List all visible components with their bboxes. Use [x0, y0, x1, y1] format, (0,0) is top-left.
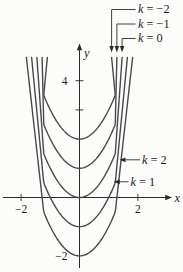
annotation-connector-k-neg1: [117, 24, 136, 47]
annotation-down-arrow-icon-k-neg2: [109, 46, 114, 52]
y-tick-label-neg2: −2: [55, 250, 67, 262]
annotation-down-arrow-icon-k-neg1: [115, 46, 120, 52]
annotation-connector-k-neg2: [112, 10, 136, 47]
y-axis-label: y: [82, 46, 90, 60]
annotation-label-k-2: k = 2: [142, 153, 167, 167]
x-tick-label-2: 2: [135, 203, 141, 215]
plot-canvas: xy−224−2k = −2k = −1k = 0k = 2k = 1: [0, 0, 183, 272]
annotation-label-k-1: k = 1: [131, 175, 156, 189]
annotation-label-k-neg1: k = −1: [138, 17, 170, 31]
x-axis-arrow-icon: [165, 195, 172, 200]
x-axis-label: x: [174, 191, 181, 205]
y-axis-arrow-icon: [77, 44, 82, 51]
annotation-down-arrow-icon-k-0: [120, 46, 125, 52]
x-tick-label-neg2: −2: [15, 203, 27, 215]
y-tick-label-4: 4: [62, 75, 68, 87]
annotation-label-k-0: k = 0: [138, 31, 163, 45]
annotation-connector-k-0: [122, 39, 135, 47]
parabola-family-figure: xy−224−2k = −2k = −1k = 0k = 2k = 1: [0, 0, 183, 272]
annotation-label-k-neg2: k = −2: [138, 2, 170, 16]
